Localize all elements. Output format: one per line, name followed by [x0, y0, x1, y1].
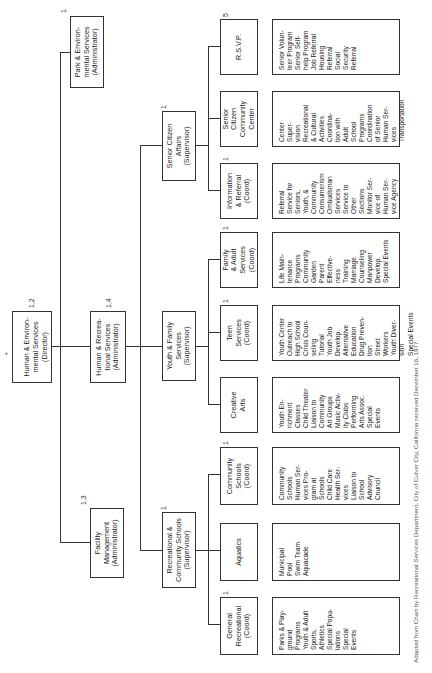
rec-schools-note: 1 — [160, 506, 167, 510]
connector — [60, 53, 61, 543]
unit-aquatics: Aquatics — [220, 523, 258, 581]
connector — [52, 346, 60, 347]
connector — [140, 346, 162, 347]
root-director-box: Human & Environ-mental Services(Director… — [12, 311, 52, 383]
facility-management-box: Facility Management (Administrator) — [90, 508, 124, 578]
connector — [208, 332, 220, 333]
activities-aquatics: Municipal Pool Swim Team Aquacade — [272, 523, 400, 581]
unit-senior-citizen-community-center: Senior Citizen Community Center — [220, 91, 258, 147]
activities-teen-services: Youth Center Outreach to High School Cri… — [272, 305, 400, 361]
root-note: 1,2 — [28, 298, 35, 308]
connector — [196, 346, 208, 347]
connector — [208, 46, 220, 47]
unit-creative-arts: Creative Arts — [220, 377, 258, 433]
connector — [140, 145, 162, 146]
human-recreational-services-box: Human & Recrea- tional Services (Adminis… — [90, 311, 126, 383]
connector — [60, 52, 70, 53]
youth-family-services-box: Youth & Family Services (Supervisor) — [162, 311, 196, 381]
unit-general-recreational: General Recreational (Coord) — [220, 597, 258, 655]
activities-family-adult-services: Life Main- tenance Programs Community Ga… — [272, 232, 400, 288]
org-chart: Human & Environ-mental Services(Director… — [0, 0, 432, 673]
connector — [140, 146, 141, 551]
connector — [208, 550, 220, 551]
unit-note: 1 — [222, 299, 229, 303]
connector — [60, 346, 90, 347]
unit-note: 1 — [222, 591, 229, 595]
unit-rsvp: R.S.V.P. — [220, 19, 258, 75]
activities-information-referral: Referral Service for Seniors, Youth, & C… — [272, 163, 400, 219]
connector — [60, 542, 90, 543]
connector — [208, 259, 220, 260]
unit-note: 5 — [222, 13, 229, 17]
connector — [140, 550, 162, 551]
senior-citizen-affairs-box: Senior Citizen Affairs (Supervisor) — [162, 111, 196, 181]
activities-community-schools: Community Schools Human Ser- vices Pro- … — [272, 447, 400, 505]
human-rec-note: 1,4 — [105, 298, 112, 308]
unit-information-referral: Information & Referral (Coord) — [220, 163, 258, 219]
unit-family-adult-services: Family & Adult Services (Coord) — [220, 232, 258, 288]
source-caption: Adapted from Chart by Recreational Servi… — [412, 340, 419, 663]
activities-creative-arts: Youth En- richment Classes Child Theater… — [272, 377, 400, 433]
park-environmental-services-box: Park & Environ- mental Services (Adminis… — [70, 16, 104, 88]
connector — [208, 404, 220, 405]
root-asterisk: * — [4, 352, 11, 355]
facility-note: 1,3 — [80, 495, 87, 505]
connector — [208, 118, 220, 119]
root-label: Human & Environ-mental Services(Director… — [15, 318, 50, 377]
connector — [196, 145, 208, 146]
unit-community-schools: Community Schools (Coord) — [220, 447, 258, 505]
unit-note: 1 — [222, 226, 229, 230]
activities-general-recreational: Parks & Play- ground Programs Youth & Ad… — [272, 597, 400, 655]
unit-note: 1 — [222, 157, 229, 161]
recreational-community-schools-box: Recreational & Community Schools (Superv… — [162, 512, 196, 588]
connector — [208, 474, 220, 475]
park-note: 1 — [60, 9, 67, 13]
connector — [208, 190, 220, 191]
connector — [196, 550, 208, 551]
activities-rsvp: Senior Volun- teer Program Senior Self- … — [272, 19, 400, 75]
senior-note: 1 — [160, 105, 167, 109]
connector — [126, 346, 140, 347]
unit-teen-services: Teen Services (Coord) — [220, 305, 258, 361]
connector — [208, 624, 220, 625]
connector — [208, 47, 209, 191]
activities-senior-center: Center Super- vision Recreational & Cult… — [272, 91, 400, 147]
unit-note: 1 — [222, 441, 229, 445]
